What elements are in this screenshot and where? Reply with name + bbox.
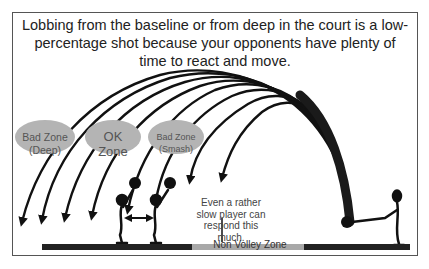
court-baseline-area: [42, 244, 192, 250]
zone-label-ok: OKZone: [87, 129, 139, 159]
ball-icon: [164, 177, 176, 189]
ball-icon: [129, 177, 141, 189]
zone-label-bad-deep: Bad Zone(Deep): [17, 131, 73, 157]
response-note: Even a rather slow player can respond th…: [193, 197, 269, 243]
non-volley-zone-label: Non Volley Zone: [190, 240, 310, 250]
zone-label-bad-smash: Bad Zone(Smash): [150, 131, 202, 155]
player-figure-left-2: [151, 190, 168, 243]
player-figure-right: [352, 191, 404, 246]
court-far-area: [304, 244, 410, 250]
